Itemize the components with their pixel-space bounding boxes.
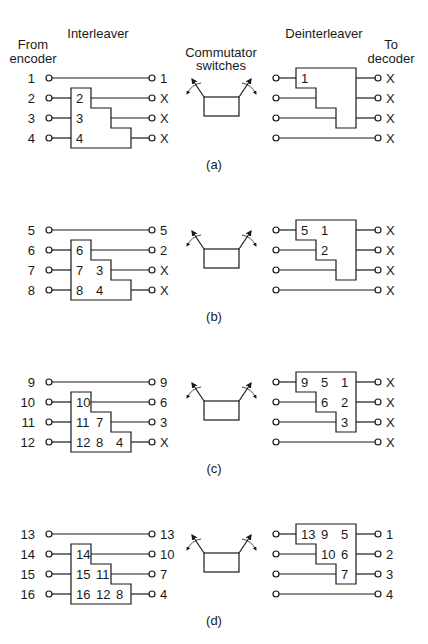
input-terminal-icon [46, 531, 52, 537]
register-cell-value: 4 [76, 131, 83, 146]
interleaver-title: Interleaver [67, 26, 129, 41]
encoder-input-label: 2 [28, 91, 35, 106]
interleaver-output-label: X [160, 111, 169, 126]
interleaver: 55662773X884X [28, 223, 169, 301]
decoder-output-label: X [386, 223, 395, 238]
encoder-input-label: 12 [21, 435, 35, 450]
decoder-output-label: X [386, 243, 395, 258]
panel-label: (c) [206, 461, 221, 476]
encoder-input-label: 5 [28, 223, 35, 238]
deinterleaver: 51X2XXX [273, 220, 395, 298]
input-terminal-icon [46, 571, 52, 577]
register-cell-value: 11 [96, 567, 110, 582]
output-terminal-icon [149, 531, 155, 537]
input-terminal-icon [273, 439, 279, 445]
register-cell-value: 15 [76, 567, 90, 582]
register-cell-value: 12 [96, 587, 110, 602]
register-cell-value: 9 [321, 527, 328, 542]
encoder-input-label: 6 [28, 243, 35, 258]
register-cell-value: 3 [341, 415, 348, 430]
input-terminal-icon [273, 399, 279, 405]
register-cell-value: 3 [76, 111, 83, 126]
input-terminal-icon [273, 75, 279, 81]
right-switch-arm-icon [239, 79, 251, 97]
right-switch-arm-icon [239, 535, 251, 553]
left-switch-arm-icon [192, 231, 204, 249]
input-terminal-icon [273, 551, 279, 557]
output-terminal-icon [375, 399, 381, 405]
decoder-output-label: X [386, 91, 395, 106]
register-cell-value: 3 [96, 263, 103, 278]
input-terminal-icon [46, 591, 52, 597]
commutator-label-2: switches [196, 58, 246, 73]
input-terminal-icon [273, 591, 279, 597]
deinterleaver: 951X62X3XX [273, 372, 395, 450]
output-terminal-icon [375, 75, 381, 81]
output-terminal-icon [375, 115, 381, 121]
register-cell-value: 7 [96, 415, 103, 430]
register-cell-value: 8 [76, 283, 83, 298]
input-terminal-icon [46, 247, 52, 253]
encoder-input-label: 14 [21, 547, 35, 562]
input-terminal-icon [46, 95, 52, 101]
output-terminal-icon [375, 227, 381, 233]
left-switch-arm-icon [192, 383, 204, 401]
input-terminal-icon [46, 115, 52, 121]
to-decoder-label-2: decoder [368, 51, 416, 66]
register-cell-value: 14 [76, 547, 90, 562]
input-terminal-icon [46, 135, 52, 141]
output-terminal-icon [375, 287, 381, 293]
register-cell-value: 6 [341, 547, 348, 562]
register-cell-value: 12 [76, 435, 90, 450]
from-encoder-label-2: encoder [10, 51, 58, 66]
output-terminal-icon [375, 591, 381, 597]
channel-box [204, 401, 239, 420]
channel-box [204, 553, 239, 572]
output-terminal-icon [149, 115, 155, 121]
input-terminal-icon [273, 571, 279, 577]
register-cell-value: 9 [301, 375, 308, 390]
to-decoder-label: To [384, 37, 398, 52]
register-cell-value: 1 [301, 71, 308, 86]
header-labels: From encoder Interleaver Commutator swit… [10, 26, 416, 73]
interleaver-output-label: 13 [160, 527, 174, 542]
register-cell-value: 2 [341, 395, 348, 410]
interleaver-output-label: X [160, 91, 169, 106]
output-terminal-icon [149, 135, 155, 141]
deinterleaver: 139511062734 [273, 524, 393, 602]
register-cell-value: 1 [321, 223, 328, 238]
interleaver-output-label: 7 [160, 567, 167, 582]
panel-label: (d) [206, 613, 222, 628]
commutator-switches [187, 535, 256, 572]
decoder-output-label: X [386, 71, 395, 86]
encoder-input-label: 13 [21, 527, 35, 542]
input-terminal-icon [46, 399, 52, 405]
input-terminal-icon [273, 379, 279, 385]
interleaver-output-label: 9 [160, 375, 167, 390]
register-cell-value: 7 [76, 263, 83, 278]
register-cell-value: 6 [76, 243, 83, 258]
output-terminal-icon [375, 551, 381, 557]
register-cell-value: 5 [301, 223, 308, 238]
interleaver-output-label: 1 [160, 71, 167, 86]
input-terminal-icon [273, 227, 279, 233]
register-cell-value: 8 [96, 435, 103, 450]
output-terminal-icon [149, 571, 155, 577]
decoder-output-label: X [386, 131, 395, 146]
decoder-output-label: X [386, 283, 395, 298]
register-cell-value: 8 [116, 587, 123, 602]
input-terminal-icon [46, 75, 52, 81]
channel-box [204, 249, 239, 268]
output-terminal-icon [149, 247, 155, 253]
panel-label: (b) [206, 309, 222, 324]
output-terminal-icon [149, 591, 155, 597]
left-switch-arm-icon [192, 535, 204, 553]
commutator-switches [187, 79, 256, 116]
input-terminal-icon [46, 551, 52, 557]
register-cell-value: 13 [301, 527, 315, 542]
input-terminal-icon [46, 287, 52, 293]
output-terminal-icon [149, 227, 155, 233]
input-terminal-icon [273, 287, 279, 293]
input-terminal-icon [46, 419, 52, 425]
output-terminal-icon [149, 379, 155, 385]
